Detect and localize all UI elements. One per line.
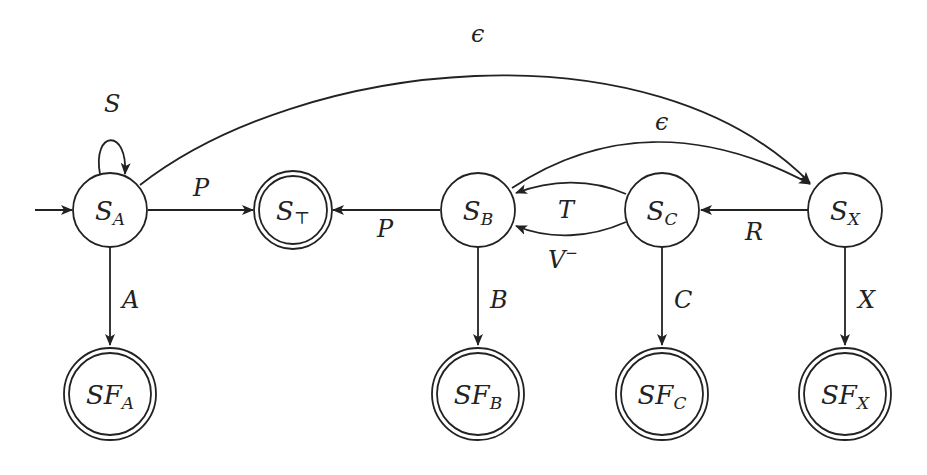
state-sb: SB bbox=[441, 173, 515, 247]
edge-label-sa-self: S bbox=[104, 90, 120, 118]
state-sc: SC bbox=[625, 173, 699, 247]
edge-sa-sx-epsilon bbox=[140, 75, 810, 185]
edge-label-sx-sc: R bbox=[744, 218, 763, 246]
edge-label-sa-sx: ϵ bbox=[471, 20, 484, 48]
edge-label-sb-sfb: B bbox=[489, 286, 508, 314]
edge-label-sc-sb-t: T bbox=[558, 196, 576, 224]
state-diagram: S P ϵ A P ϵ T V− B R C bbox=[0, 0, 927, 475]
edge-sc-sb-t bbox=[516, 183, 626, 194]
state-sfx: SFX bbox=[799, 348, 891, 440]
state-sx: SX bbox=[808, 173, 882, 247]
state-s-top: S⊤ bbox=[254, 171, 332, 249]
edge-label-sx-sfx: X bbox=[856, 286, 876, 314]
state-sa: SA bbox=[73, 173, 147, 247]
state-sfc: SFC bbox=[616, 348, 708, 440]
edge-label-sb-st: P bbox=[376, 215, 394, 243]
state-sfb: SFB bbox=[432, 348, 524, 440]
edge-label-sc-sfc: C bbox=[674, 286, 692, 314]
state-sfa: SFA bbox=[64, 348, 156, 440]
edge-sc-sb-v bbox=[516, 222, 626, 235]
edge-sa-self-loop bbox=[99, 140, 125, 174]
edge-label-sc-sb-v: V− bbox=[548, 244, 578, 274]
edge-label-sa-sfa: A bbox=[120, 286, 139, 314]
edge-label-sb-sx: ϵ bbox=[655, 108, 668, 136]
edge-label-sa-st: P bbox=[192, 174, 210, 202]
